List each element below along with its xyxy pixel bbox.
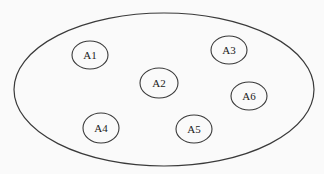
node-a1-label: A1 [83, 49, 96, 61]
node-a1: A1 [72, 41, 108, 69]
node-a6-label: A6 [242, 90, 256, 102]
node-a3: A3 [211, 36, 247, 64]
node-a5-label: A5 [187, 123, 201, 135]
node-a4-label: A4 [94, 122, 108, 134]
node-a2: A2 [140, 68, 178, 98]
outer-set-ellipse [14, 13, 314, 166]
node-a2-label: A2 [152, 77, 165, 89]
node-a3-label: A3 [222, 44, 236, 56]
node-a5: A5 [176, 115, 212, 143]
diagram-canvas: A1 A2 A3 A4 A5 A6 [0, 0, 324, 174]
node-a6: A6 [231, 82, 267, 110]
node-a4: A4 [83, 113, 119, 143]
